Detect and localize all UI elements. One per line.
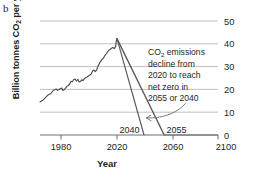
xtick-label-2060: 2060	[163, 142, 184, 152]
ytick-label-0: 0	[224, 131, 229, 141]
inline-label-2055: 2055	[167, 125, 187, 135]
annotation-line-1-post: emissions	[164, 47, 205, 57]
annotation-line-5: 2055 or 2040	[148, 93, 199, 103]
ytick-label-10: 10	[224, 108, 234, 118]
annotation-line-4: net zero in	[148, 82, 188, 92]
ytick-label-50: 50	[224, 17, 234, 27]
xtick-label-2100: 2100	[216, 142, 237, 152]
annotation-line-1-pre: CO	[148, 47, 161, 57]
annotation-text: CO2 emissions decline from 2020 to reach…	[148, 47, 205, 103]
annotation-line-1: CO2 emissions	[148, 47, 205, 58]
ytick-label-30: 30	[224, 62, 234, 72]
y-axis-tick-labels: 50 40 30 20 10 0	[224, 17, 234, 141]
ytick-label-20: 20	[224, 85, 234, 95]
inline-label-2040: 2040	[120, 125, 140, 135]
x-axis-label: Year	[0, 158, 256, 169]
annotation-line-3: 2020 to reach	[148, 70, 201, 80]
x-axis-tick-labels: 1980 2020 2060 2100	[51, 142, 237, 152]
xtick-label-1980: 1980	[51, 142, 72, 152]
chart-figure: b Billion tonnes CO2 per year	[0, 0, 256, 177]
ytick-label-40: 40	[224, 39, 234, 49]
x-axis-label-text: Year	[97, 158, 117, 169]
xtick-label-2020: 2020	[107, 142, 128, 152]
historical-emissions-line	[40, 39, 117, 102]
annotation-line-2: decline from	[148, 59, 195, 69]
x-axis-ticks	[61, 135, 218, 140]
chart-plot: 50 40 30 20 10 0 1980 2020 2060 2100 204…	[0, 0, 256, 177]
